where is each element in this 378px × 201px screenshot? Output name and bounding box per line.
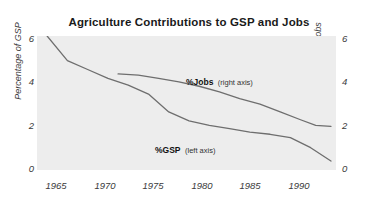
y-axis-left-tick-0: 0: [8, 163, 34, 174]
y-axis-left-title: Percentage of GSP: [13, 1, 23, 121]
y-axis-right-tick-4: 4: [342, 76, 368, 87]
series-label-gsp: %GSP (left axis): [155, 139, 215, 157]
series-label-jobs-axis-note: (right axis): [218, 78, 253, 87]
y-axis-right-tick-6: 6: [342, 33, 368, 44]
x-axis-tick-1975: 1975: [133, 180, 173, 191]
x-axis-tick-1970: 1970: [85, 180, 125, 191]
chart-figure: Agriculture Contributions to GSP and Job…: [0, 0, 378, 201]
y-axis-right-tick-2: 2: [342, 120, 368, 131]
series-label-gsp-name: %GSP: [155, 145, 181, 155]
y-axis-right-tick-0: 0: [342, 163, 368, 174]
x-axis-tick-1985: 1985: [230, 180, 270, 191]
x-axis-tick-1965: 1965: [36, 180, 76, 191]
y-axis-left-tick-2: 2: [8, 120, 34, 131]
x-axis-tick-1990: 1990: [279, 180, 319, 191]
series-label-gsp-axis-note: (left axis): [185, 146, 215, 155]
x-axis-tick-1980: 1980: [182, 180, 222, 191]
series-label-jobs: %Jobs (right axis): [186, 71, 253, 89]
series-label-jobs-name: %Jobs: [186, 77, 213, 87]
